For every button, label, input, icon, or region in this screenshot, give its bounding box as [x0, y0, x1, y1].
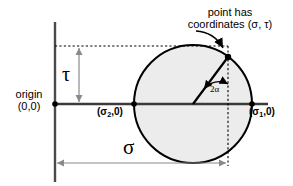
sigma2-suffix: ,0)	[111, 106, 123, 117]
sigma2-prefix: (σ	[97, 106, 107, 117]
callout-line-1: point has	[171, 6, 289, 18]
origin-line-1: origin	[6, 88, 52, 100]
sigma-axis-label: σ	[123, 136, 134, 160]
angle-label: 2α	[210, 84, 219, 94]
origin-label: origin (0,0)	[6, 88, 52, 113]
sigma2-point-label: (σ2,0)	[97, 106, 123, 119]
sigma1-prefix: (σ	[249, 106, 259, 117]
callout-line-2: coordinates (σ, τ)	[171, 18, 289, 30]
origin-line-2: (0,0)	[6, 100, 52, 112]
callout-text: point has coordinates (σ, τ)	[171, 6, 289, 31]
origin-dot	[52, 101, 58, 107]
mohr-circle-figure: point has coordinates (σ, τ) origin (0,0…	[0, 0, 293, 186]
sigma2-dot	[131, 101, 137, 107]
coordinate-point	[225, 54, 231, 60]
sigma1-suffix: ,0)	[263, 106, 275, 117]
tau-axis-label: τ	[62, 63, 70, 85]
sigma1-point-label: (σ1,0)	[249, 106, 275, 119]
